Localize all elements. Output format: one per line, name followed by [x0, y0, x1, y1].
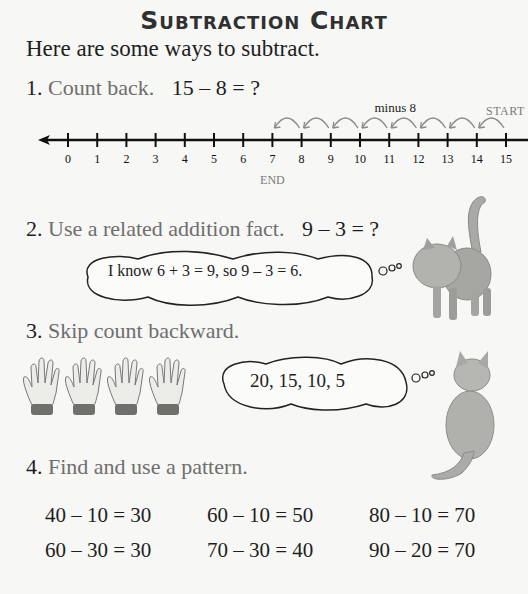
pattern-eq: 60 – 30 = 30: [45, 538, 151, 563]
tick-label: 7: [269, 152, 275, 166]
tick-label: 1: [94, 152, 100, 166]
start-label: START: [486, 104, 525, 118]
pattern-eq: 90 – 20 = 70: [369, 538, 475, 563]
hop-arc: [391, 118, 416, 128]
hop-arc: [420, 118, 445, 128]
tick-label: 14: [471, 152, 483, 166]
tick-label: 6: [240, 152, 246, 166]
tick-label: 0: [65, 152, 71, 166]
cat-leg: [449, 288, 457, 320]
tick-label: 11: [383, 152, 395, 166]
step-equation: 9 – 3 = ?: [302, 216, 379, 241]
hop-arc: [479, 118, 504, 128]
step-text: Skip count backward.: [48, 318, 239, 343]
step-number: 2.: [26, 216, 43, 241]
cat-head: [413, 244, 461, 288]
tick-label: 2: [123, 152, 129, 166]
cat-leg: [471, 290, 479, 316]
cat-tail: [432, 451, 474, 479]
end-label: END: [260, 173, 285, 187]
tick-label: 3: [153, 152, 159, 166]
tick-label: 12: [412, 152, 424, 166]
glove-icon: [107, 358, 143, 415]
pattern-eq: 80 – 10 = 70: [369, 503, 475, 528]
step-related-fact: 2. Use a related addition fact. 9 – 3 = …: [26, 216, 379, 242]
hop-arc: [362, 118, 387, 128]
step-skip-count: 3. Skip count backward.: [26, 318, 239, 344]
hop-arc: [304, 118, 329, 128]
page-title: Subtraction Chart: [0, 6, 528, 35]
sitting-cat-illustration: [420, 345, 520, 485]
hop-label: minus 8: [374, 100, 416, 115]
step-number: 4.: [26, 454, 43, 479]
glove-icon: [149, 358, 185, 415]
tick-label: 4: [182, 152, 188, 166]
step-text: Use a related addition fact.: [48, 216, 284, 241]
hop-arc: [450, 118, 475, 128]
cat-tail: [468, 197, 485, 254]
pattern-eq: 70 – 30 = 40: [207, 538, 313, 563]
cat-leg: [483, 288, 491, 316]
step-text: Find and use a pattern.: [48, 454, 248, 479]
hop-arc: [333, 118, 358, 128]
cat-leg: [433, 286, 441, 318]
cat-body: [446, 391, 494, 459]
pattern-eq: 40 – 10 = 30: [45, 503, 151, 528]
glove-icon: [23, 358, 59, 415]
standing-cat-illustration: [395, 192, 525, 324]
hop-arc: [274, 118, 299, 128]
glove-icon: [65, 358, 101, 415]
gloves-illustration: [18, 357, 193, 419]
tick-label: 8: [299, 152, 305, 166]
tick-label: 10: [354, 152, 366, 166]
pattern-eq: 60 – 10 = 50: [207, 503, 313, 528]
bubble-dot: [379, 267, 387, 275]
tick-label: 15: [500, 152, 512, 166]
step-number: 3.: [26, 318, 43, 343]
tick-label: 5: [211, 152, 217, 166]
intro-text: Here are some ways to subtract.: [26, 36, 320, 62]
tick-label: 9: [328, 152, 334, 166]
addition-fact-text: I know 6 + 3 = 9, so 9 – 3 = 6.: [108, 262, 302, 280]
number-line: 0123456789101112131415minus 8STARTEND: [0, 95, 528, 190]
bubble-dot: [412, 374, 420, 382]
step-pattern: 4. Find and use a pattern.: [26, 454, 248, 480]
tick-label: 13: [442, 152, 454, 166]
skip-count-text: 20, 15, 10, 5: [250, 370, 345, 392]
